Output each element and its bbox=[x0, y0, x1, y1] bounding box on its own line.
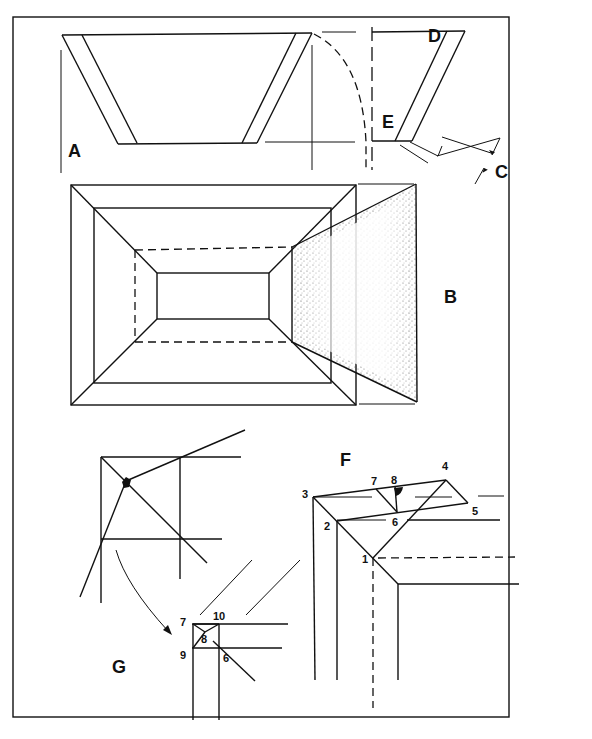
elevation-view-a: A bbox=[61, 27, 372, 173]
detail-g: G 7 8 9 10 6 bbox=[112, 560, 300, 720]
f-point-7: 7 bbox=[371, 475, 377, 487]
f-point-5: 5 bbox=[472, 505, 478, 517]
g-point-10: 10 bbox=[213, 610, 225, 622]
label-c: C bbox=[495, 162, 508, 182]
technical-drawing: A D E C bbox=[0, 0, 592, 739]
f-point-2: 2 bbox=[324, 520, 330, 532]
label-g: G bbox=[112, 657, 126, 677]
g-point-7: 7 bbox=[180, 616, 186, 628]
f-point-1: 1 bbox=[362, 553, 368, 565]
g-point-6: 6 bbox=[223, 652, 229, 664]
f-point-4: 4 bbox=[442, 460, 449, 472]
mitre-construction-upper bbox=[80, 430, 245, 635]
f-point-8: 8 bbox=[391, 474, 397, 486]
label-f: F bbox=[340, 450, 351, 470]
label-b: B bbox=[444, 287, 457, 307]
detail-f: F 1 2 3 4 5 6 7 8 bbox=[302, 450, 519, 708]
f-point-3: 3 bbox=[302, 488, 308, 500]
profile-detail-dec: D E C bbox=[372, 26, 508, 184]
label-a: A bbox=[68, 141, 81, 161]
f-point-6: 6 bbox=[392, 516, 398, 528]
label-d: D bbox=[428, 26, 441, 46]
figure-border bbox=[13, 17, 509, 717]
plan-view-b: B bbox=[71, 184, 457, 405]
g-point-8: 8 bbox=[201, 633, 207, 645]
g-point-9: 9 bbox=[180, 649, 186, 661]
label-e: E bbox=[382, 112, 394, 132]
